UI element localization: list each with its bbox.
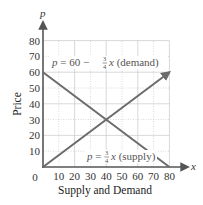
axes [42, 22, 188, 168]
x-axis-variable: x [190, 160, 196, 172]
y-tick-label: 10 [29, 145, 41, 157]
origin-label: 0 [32, 171, 38, 183]
svg-text:3: 3 [103, 55, 106, 62]
x-tick-label: 10 [53, 170, 65, 182]
y-tick-label: 80 [29, 35, 41, 47]
x-tick-label: 70 [148, 170, 160, 182]
x-tick-label: 80 [164, 170, 176, 182]
y-tick-label: 20 [29, 129, 41, 141]
x-tick-label: 30 [85, 170, 97, 182]
supply-demand-chart: 102030405060708010203040506070800 p = 60… [0, 0, 203, 205]
svg-text:3: 3 [105, 149, 108, 156]
x-tick-label: 50 [117, 170, 129, 182]
x-tick-label: 40 [101, 170, 113, 182]
x-tick-label: 60 [132, 170, 144, 182]
y-tick-label: 40 [29, 98, 41, 110]
y-axis-title: Price [11, 92, 23, 116]
svg-text:x (supply): x (supply) [110, 150, 156, 163]
demand-equation-label: p = 60 − 3 4 x (demand) [50, 55, 168, 70]
svg-text:p = 60 −: p = 60 − [51, 56, 89, 68]
x-tick-label: 20 [69, 170, 81, 182]
x-axis-title: Supply and Demand [58, 184, 152, 197]
y-tick-label: 50 [29, 82, 41, 94]
y-tick-label: 60 [29, 66, 41, 78]
svg-text:p =: p = [86, 150, 101, 162]
svg-text:x (demand): x (demand) [108, 56, 159, 69]
y-tick-label: 30 [29, 114, 41, 126]
supply-equation-label: p = 3 4 x (supply) [85, 149, 157, 164]
y-tick-label: 70 [29, 50, 41, 62]
y-axis-variable: p [39, 7, 46, 19]
